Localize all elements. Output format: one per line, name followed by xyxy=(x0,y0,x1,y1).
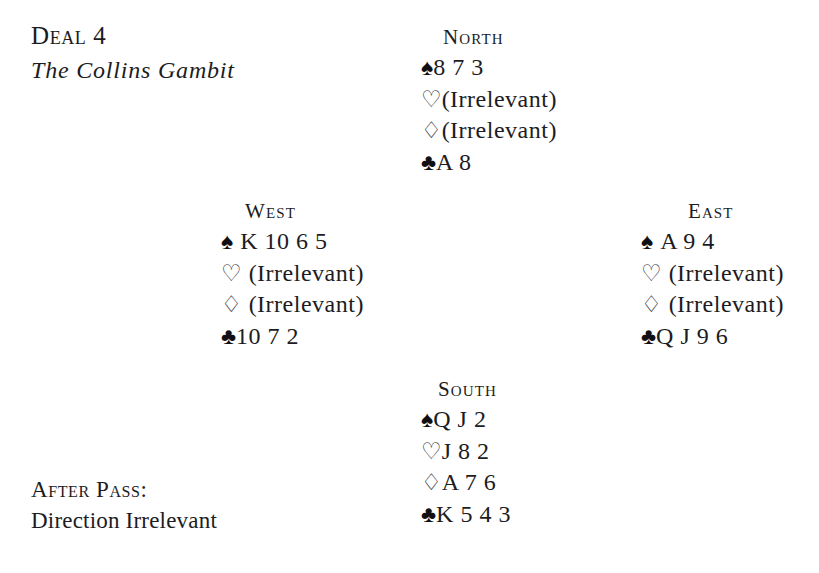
south-spades-row: ♠Q J 2 xyxy=(421,404,511,436)
north-spades-row: ♠8 7 3 xyxy=(421,52,557,84)
east-clubs-row: ♣Q J 9 6 xyxy=(641,321,784,353)
spade-icon: ♠ xyxy=(221,230,233,253)
hand-label-east: East xyxy=(688,196,784,226)
west-diamonds-cards: (Irrelevant) xyxy=(249,291,364,317)
east-spades-cards: A 9 4 xyxy=(660,228,715,254)
bridge-deal-diagram: Deal 4 The Collins Gambit North ♠8 7 3 ♡… xyxy=(0,0,819,573)
heart-icon: ♡ xyxy=(421,440,442,463)
south-diamonds-cards: A 7 6 xyxy=(442,469,497,495)
south-hearts-cards: J 8 2 xyxy=(442,438,490,464)
hand-east: East ♠A 9 4 ♡(Irrelevant) ♢(Irrelevant) … xyxy=(641,196,784,352)
south-diamonds-row: ♢A 7 6 xyxy=(421,467,511,499)
spade-icon: ♠ xyxy=(641,230,653,253)
south-spades-cards: Q J 2 xyxy=(433,406,486,432)
west-hearts-cards: (Irrelevant) xyxy=(249,260,364,286)
east-hearts-row: ♡(Irrelevant) xyxy=(641,258,784,290)
diamond-icon: ♢ xyxy=(421,471,442,494)
west-diamonds-row: ♢(Irrelevant) xyxy=(221,289,364,321)
west-spades-cards: K 10 6 5 xyxy=(240,228,327,254)
north-diamonds-row: ♢(Irrelevant) xyxy=(421,115,557,147)
west-hearts-row: ♡(Irrelevant) xyxy=(221,258,364,290)
south-hearts-row: ♡J 8 2 xyxy=(421,436,511,468)
club-icon: ♣ xyxy=(421,503,436,526)
direction-irrelevant-text: Direction Irrelevant xyxy=(31,505,217,536)
spade-icon: ♠ xyxy=(421,56,433,79)
east-spades-row: ♠A 9 4 xyxy=(641,226,784,258)
deal-name: The Collins Gambit xyxy=(31,54,235,86)
hand-south: South ♠Q J 2 ♡J 8 2 ♢A 7 6 ♣K 5 4 3 xyxy=(421,374,511,530)
diamond-icon: ♢ xyxy=(641,293,662,316)
spade-icon: ♠ xyxy=(421,408,433,431)
hand-label-south: South xyxy=(438,374,511,404)
north-spades-cards: 8 7 3 xyxy=(433,54,484,80)
north-clubs-row: ♣A 8 xyxy=(421,147,557,179)
east-diamonds-row: ♢(Irrelevant) xyxy=(641,289,784,321)
deal-number: Deal 4 xyxy=(31,20,235,52)
heart-icon: ♡ xyxy=(641,262,662,285)
deal-title-block: Deal 4 The Collins Gambit xyxy=(31,20,235,86)
north-hearts-row: ♡(Irrelevant) xyxy=(421,84,557,116)
diamond-icon: ♢ xyxy=(421,119,442,142)
east-hearts-cards: (Irrelevant) xyxy=(669,260,784,286)
club-icon: ♣ xyxy=(421,151,436,174)
hand-label-north: North xyxy=(443,22,557,52)
south-clubs-cards: K 5 4 3 xyxy=(436,501,511,527)
hand-north: North ♠8 7 3 ♡(Irrelevant) ♢(Irrelevant)… xyxy=(421,22,557,178)
north-hearts-cards: (Irrelevant) xyxy=(442,86,557,112)
south-clubs-row: ♣K 5 4 3 xyxy=(421,499,511,531)
heart-icon: ♡ xyxy=(221,262,242,285)
north-clubs-cards: A 8 xyxy=(436,149,472,175)
west-clubs-cards: 10 7 2 xyxy=(236,323,299,349)
hand-label-west: West xyxy=(245,196,364,226)
after-pass-label: After Pass: xyxy=(31,474,217,505)
diamond-icon: ♢ xyxy=(221,293,242,316)
heart-icon: ♡ xyxy=(421,88,442,111)
east-clubs-cards: Q J 9 6 xyxy=(656,323,728,349)
club-icon: ♣ xyxy=(641,325,656,348)
west-clubs-row: ♣10 7 2 xyxy=(221,321,364,353)
club-icon: ♣ xyxy=(221,325,236,348)
north-diamonds-cards: (Irrelevant) xyxy=(442,117,557,143)
east-diamonds-cards: (Irrelevant) xyxy=(669,291,784,317)
after-pass-note: After Pass: Direction Irrelevant xyxy=(31,474,217,536)
hand-west: West ♠K 10 6 5 ♡(Irrelevant) ♢(Irrelevan… xyxy=(221,196,364,352)
west-spades-row: ♠K 10 6 5 xyxy=(221,226,364,258)
